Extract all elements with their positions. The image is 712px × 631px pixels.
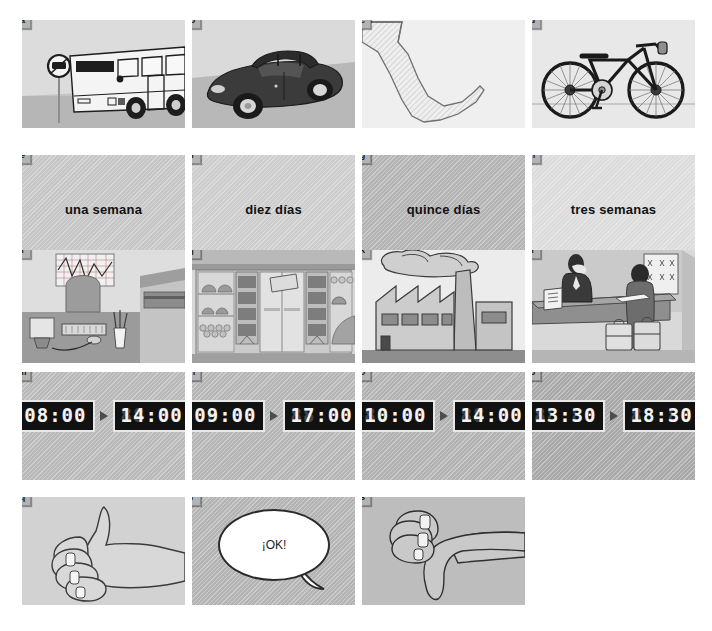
exercise-sheet: a: [0, 0, 712, 631]
thumbs-up-icon: [22, 497, 185, 605]
arrow-icon-m: [100, 411, 108, 421]
duration-text-f: diez días: [245, 202, 302, 217]
panel-image-thumbs-down: s: [362, 497, 525, 605]
panel-label-e: e: [22, 155, 31, 164]
panel-image-bus: a: [22, 20, 185, 128]
lcd-ghost-m-start: 88:88: [24, 406, 86, 425]
panel-label-g: g: [362, 155, 371, 164]
shop-illustration: [192, 250, 355, 363]
panel-text-tres-semanas: tres semanas h: [532, 155, 695, 263]
panel-label-f: f: [192, 155, 201, 164]
office-illustration: [22, 250, 185, 363]
panel-label-q: q: [22, 497, 31, 506]
panel-label-d: d: [532, 20, 541, 29]
panel-text-una-semana: una semana e: [22, 155, 185, 263]
panel-label-k: k: [362, 250, 371, 259]
lcd-start-m: 88:88 08:00: [22, 400, 95, 432]
panel-label-a: a: [22, 20, 31, 29]
car-illustration: [192, 20, 355, 128]
lcd-end-n: 88:88 17:00: [283, 400, 356, 432]
panel-text-quince-dias: quince días g: [362, 155, 525, 263]
speech-bubble-text: ¡OK!: [262, 538, 287, 552]
panel-label-r: r: [192, 497, 201, 506]
panel-label-o: o: [362, 372, 371, 381]
thumbs-down-icon: [362, 497, 525, 605]
duration-text-g: quince días: [407, 202, 481, 217]
panel-text-diez-dias: diez días f: [192, 155, 355, 263]
panel-clock-n: 88:88 09:00 88:88 17:00 n: [192, 372, 355, 480]
lcd-ghost-n-end: 88:88: [291, 406, 353, 425]
panel-clock-p: 88:88 13:30 88:88 18:30 p: [532, 372, 695, 480]
clock-pair-m: 88:88 08:00 88:88 14:00: [22, 400, 185, 432]
clock-pair-p: 88:88 13:30 88:88 18:30: [532, 400, 695, 432]
panel-image-thumbs-up: q: [22, 497, 185, 605]
lcd-ghost-m-end: 88:88: [121, 406, 183, 425]
panel-image-car: b: [192, 20, 355, 128]
panel-image-foot: c: [362, 20, 525, 128]
clock-pair-o: 88:88 10:00 88:88 14:00: [362, 400, 525, 432]
bicycle-illustration: [532, 20, 695, 128]
lcd-start-p: 88:88 13:30: [532, 400, 605, 432]
panel-image-office: i: [22, 250, 185, 363]
panel-label-s: s: [362, 497, 371, 506]
panel-image-reception: l: [532, 250, 695, 363]
arrow-icon-p: [610, 411, 618, 421]
lcd-ghost-p-end: 88:88: [631, 406, 693, 425]
panel-image-speech-ok: ¡OK! r: [192, 497, 355, 605]
panel-label-i: i: [22, 250, 31, 259]
lcd-start-n: 88:88 09:00: [192, 400, 265, 432]
panel-label-m: m: [22, 372, 31, 381]
panel-label-n: n: [192, 372, 201, 381]
lcd-end-p: 88:88 18:30: [623, 400, 696, 432]
lcd-end-m: 88:88 14:00: [113, 400, 186, 432]
arrow-icon-o: [440, 411, 448, 421]
speech-bubble: ¡OK!: [218, 509, 330, 581]
panel-image-shop: j: [192, 250, 355, 363]
panel-label-p: p: [532, 372, 541, 381]
bus-illustration: [22, 20, 185, 128]
panel-label-l: l: [532, 250, 541, 259]
panel-clock-o: 88:88 10:00 88:88 14:00 o: [362, 372, 525, 480]
lcd-ghost-o-start: 88:88: [364, 406, 426, 425]
lcd-ghost-o-end: 88:88: [461, 406, 523, 425]
reception-illustration: [532, 250, 695, 363]
panel-label-c: c: [362, 20, 371, 29]
panel-label-b: b: [192, 20, 201, 29]
panel-image-bicycle: d: [532, 20, 695, 128]
panel-image-factory: k: [362, 250, 525, 363]
duration-text-e: una semana: [65, 202, 142, 217]
clock-pair-n: 88:88 09:00 88:88 17:00: [192, 400, 355, 432]
lcd-end-o: 88:88 14:00: [453, 400, 526, 432]
arrow-icon-n: [270, 411, 278, 421]
lcd-ghost-n-start: 88:88: [194, 406, 256, 425]
panel-clock-m: 88:88 08:00 88:88 14:00 m: [22, 372, 185, 480]
panel-label-h: h: [532, 155, 541, 164]
duration-text-h: tres semanas: [571, 202, 657, 217]
speech-bubble-group: ¡OK!: [192, 497, 355, 605]
panel-label-j: j: [192, 250, 201, 259]
leg-foot-illustration: [362, 20, 525, 128]
factory-illustration: [362, 250, 525, 363]
lcd-ghost-p-start: 88:88: [534, 406, 596, 425]
lcd-start-o: 88:88 10:00: [362, 400, 435, 432]
